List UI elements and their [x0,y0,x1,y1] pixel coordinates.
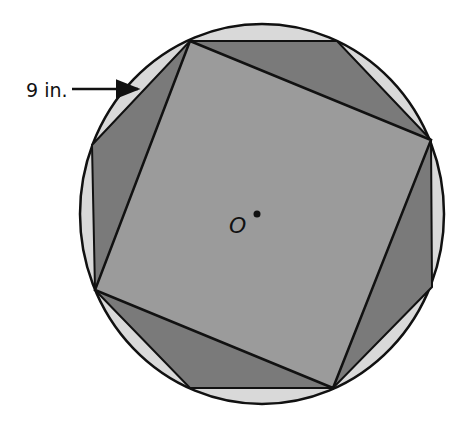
center-point-dot [254,211,261,218]
circle-octagon-square-diagram: O 9 in. [0,0,470,429]
radius-label: 9 in. [26,79,68,101]
center-label: O [229,213,246,238]
